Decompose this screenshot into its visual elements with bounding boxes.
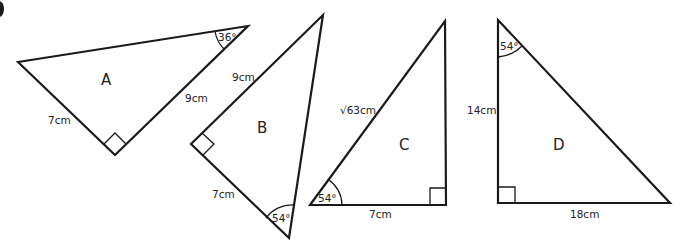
side-label-b-2: 7cm — [212, 188, 235, 200]
triangle-b: 54° B 9cm 7cm — [191, 15, 323, 238]
right-angle-mark-c — [430, 188, 446, 205]
side-label-b-1: 9cm — [232, 71, 255, 83]
question-bullet — [0, 1, 4, 17]
side-label-a-1: 7cm — [48, 114, 71, 126]
triangle-name-c: C — [399, 136, 409, 154]
side-label-d-height: 14cm — [467, 104, 496, 116]
side-label-d-base: 18cm — [570, 208, 599, 220]
triangle-name-a: A — [101, 71, 112, 89]
triangle-c: 54° C √63cm 7cm — [310, 21, 446, 220]
side-label-a-2: 9cm — [185, 92, 208, 104]
side-label-c-hypotenuse: √63cm — [340, 104, 376, 116]
triangle-d: 54° D 14cm 18cm — [467, 20, 670, 220]
triangle-name-b: B — [257, 119, 267, 137]
angle-label-c: 54° — [318, 192, 337, 204]
right-angle-mark-b — [202, 133, 214, 155]
triangle-name-d: D — [553, 136, 565, 154]
angle-label-b: 54° — [272, 212, 291, 224]
triangles-diagram: 36° A 7cm 9cm 54° B 9cm 7cm 54° C √63cm … — [0, 0, 691, 245]
side-label-c-base: 7cm — [369, 208, 392, 220]
right-angle-mark-a — [104, 133, 126, 144]
angle-label-a: 36° — [218, 31, 237, 43]
angle-label-d: 54° — [500, 40, 519, 52]
triangle-a: 36° A 7cm 9cm — [18, 26, 248, 155]
right-angle-mark-d — [498, 187, 515, 203]
